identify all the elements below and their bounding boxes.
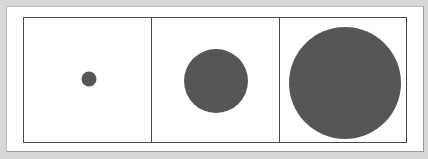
panel-3 bbox=[279, 18, 406, 142]
panel-2 bbox=[151, 18, 278, 142]
figure-canvas bbox=[0, 0, 428, 159]
panel-1 bbox=[24, 18, 151, 142]
small-circle-shape bbox=[82, 72, 97, 87]
medium-circle-shape bbox=[184, 49, 248, 113]
large-circle-shape bbox=[289, 27, 401, 139]
panel-row bbox=[23, 17, 407, 143]
